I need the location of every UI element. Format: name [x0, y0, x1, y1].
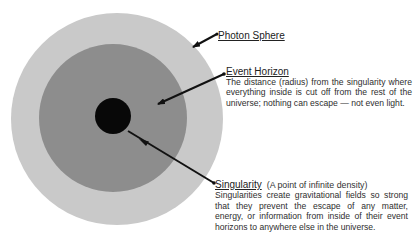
- singularity-title: Singularity: [215, 179, 262, 190]
- singularity-label: Singularity(A point of infinite density)…: [215, 179, 408, 232]
- singularity-heading: Singularity(A point of infinite density): [215, 179, 408, 190]
- photon-sphere-title: Photon Sphere: [218, 30, 285, 41]
- singularity-region: [95, 98, 131, 134]
- event-horizon-title-text: Event Horizon: [226, 66, 289, 77]
- singularity-description: Singularities create gravitational field…: [215, 190, 408, 232]
- event-horizon-title: Event Horizon: [226, 66, 412, 77]
- singularity-subtitle: (A point of infinite density): [267, 180, 368, 190]
- event-horizon-label: Event Horizon The distance (radius) from…: [226, 66, 412, 108]
- event-horizon-description: The distance (radius) from the singulari…: [226, 77, 412, 108]
- photon-sphere-arrow: [193, 34, 217, 47]
- photon-sphere-label: Photon Sphere: [218, 30, 285, 41]
